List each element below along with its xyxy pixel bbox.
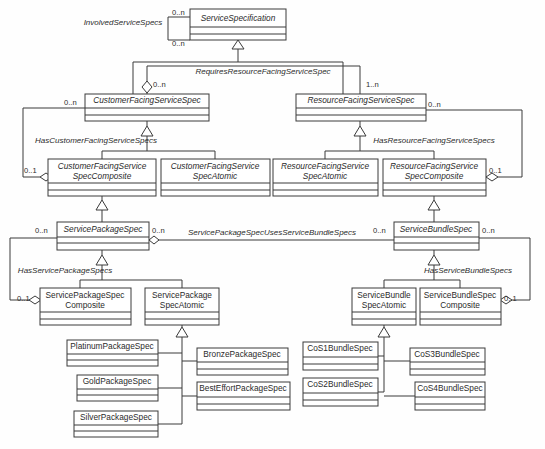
generalization-arrow-rfss-composite	[428, 200, 440, 210]
multiplicity-label-layer: 0..n 0..n 0..n 1..n 0..n 0..n 0..1 0..1 …	[17, 8, 517, 303]
class-resource-facing-service-spec-composite[interactable]: ResourceFacingService SpecComposite	[383, 159, 486, 196]
diagram-canvas: ServiceSpecification CustomerFacingServi…	[0, 0, 545, 449]
gen-sbs-split	[384, 280, 460, 288]
multiplicity-sbs-left: 0..n	[373, 226, 386, 235]
generalization-arrow-sbs	[428, 255, 440, 265]
class-customer-facing-service-spec[interactable]: CustomerFacingServiceSpec	[85, 94, 209, 121]
class-resource-facing-service-spec-atomic[interactable]: ResourceFacingService SpecAtomic	[273, 159, 378, 196]
generalization-arrow-cfss	[141, 126, 153, 136]
class-name-line1: CustomerFacingService	[58, 161, 147, 171]
multiplicity-sps-right: 0..n	[152, 226, 165, 235]
aggregation-diamond-requires	[142, 81, 152, 93]
class-resource-facing-service-spec[interactable]: ResourceFacingServiceSpec	[296, 94, 426, 121]
class-cos2-bundle-spec[interactable]: CoS2BundleSpec	[303, 378, 378, 406]
class-best-effort-package-spec[interactable]: BestEffortPackageSpec	[197, 382, 290, 410]
class-name-line2: SpecAtomic	[303, 171, 348, 181]
class-name-label: BestEffortPackageSpec	[199, 383, 286, 393]
class-name-line2: SpecAtomic	[362, 300, 406, 310]
class-customer-facing-service-spec-atomic[interactable]: CustomerFacingService SpecAtomic	[161, 159, 270, 196]
gen-rfss-split	[325, 151, 434, 159]
class-bronze-package-spec[interactable]: BronzePackageSpec	[197, 348, 288, 375]
class-service-bundle-spec[interactable]: ServiceBundleSpec	[394, 222, 479, 250]
multiplicity-cfss-composite-left: 0..1	[24, 166, 37, 175]
multiplicity-sbs-composite-right: 0..1	[504, 294, 517, 303]
multiplicity-rfss-composite-right: 0..1	[489, 166, 502, 175]
class-cos1-bundle-spec[interactable]: CoS1BundleSpec	[303, 342, 378, 370]
class-name-line2: Composite	[65, 300, 105, 310]
class-name-label: SilverPackageSpec	[80, 412, 152, 422]
assoc-label-has-customer-facing-service-specs: HasCustomerFacingServiceSpecs	[35, 136, 157, 145]
class-name-line1: ServiceBundleSpec	[424, 290, 496, 300]
multiplicity-requires-source: 0..n	[153, 80, 166, 89]
class-cos3-bundle-spec[interactable]: CoS3BundleSpec	[410, 348, 485, 375]
class-name-label: BronzePackageSpec	[203, 349, 281, 359]
gen-sps-split	[80, 280, 182, 288]
class-name-line2: SpecComposite	[73, 171, 132, 181]
class-name-label: CoS4BundleSpec	[417, 383, 483, 393]
multiplicity-sps-left: 0..n	[35, 226, 48, 235]
multiplicity-rfss-right: 0..n	[428, 100, 441, 109]
generalization-arrow-sps	[96, 255, 108, 265]
class-name-label: ResourceFacingServiceSpec	[308, 95, 416, 105]
class-platinum-package-spec[interactable]: PlatinumPackageSpec	[67, 340, 158, 366]
class-name-label: CustomerFacingServiceSpec	[93, 95, 201, 105]
class-name-line2: SpecComposite	[405, 171, 464, 181]
class-name-label: CoS3BundleSpec	[414, 349, 480, 359]
generalization-arrow-sbs-atomic	[378, 327, 390, 337]
generalization-arrow-rfss	[354, 126, 366, 136]
class-service-bundle-spec-atomic[interactable]: ServiceBundle SpecAtomic	[352, 288, 416, 325]
class-name-label: ServiceBundleSpec	[400, 224, 473, 234]
multiplicity-involved-bottom: 0..n	[172, 39, 185, 48]
class-name-line1: ResourceFacingService	[281, 161, 369, 171]
multiplicity-requires-target: 1..n	[366, 80, 379, 89]
class-cos4-bundle-spec[interactable]: CoS4BundleSpec	[415, 382, 485, 410]
class-name-line2: Composite	[440, 300, 480, 310]
multiplicity-sbs-right: 0..n	[482, 226, 495, 235]
assoc-label-has-resource-facing-service-specs: HasResourceFacingServiceSpecs	[373, 136, 494, 145]
class-name-line1: ResourceFacingService	[390, 161, 478, 171]
generalization-arrow-sps-atomic	[176, 327, 188, 337]
assoc-label-has-service-bundle-specs: HasServiceBundleSpecs	[424, 266, 512, 275]
uml-class-diagram: ServiceSpecification CustomerFacingServi…	[0, 0, 545, 449]
assoc-label-requires-resource-facing-service-spec: RequiresResourceFacingServiceSpec	[195, 67, 330, 76]
class-name-label: CoS1BundleSpec	[307, 343, 373, 353]
class-gold-package-spec[interactable]: GoldPackageSpec	[77, 375, 158, 401]
class-name-line1: ServicePackage	[152, 290, 212, 300]
class-service-bundle-spec-composite[interactable]: ServiceBundleSpec Composite	[420, 288, 501, 325]
generalization-arrow-servicespec	[232, 40, 244, 49]
class-name-label: ServiceSpecification	[201, 13, 276, 23]
class-name-line1: ServicePackageSpec	[46, 290, 125, 300]
assoc-label-has-service-package-specs: HasServicePackageSpecs	[18, 266, 112, 275]
assoc-involved-service-specs-line	[168, 17, 190, 40]
class-name-label: PlatinumPackageSpec	[70, 341, 153, 351]
class-customer-facing-service-spec-composite[interactable]: CustomerFacingService SpecComposite	[48, 159, 156, 196]
generalization-arrow-cfss-composite	[96, 200, 108, 210]
class-name-line2: SpecAtomic	[160, 300, 204, 310]
class-service-package-spec-atomic[interactable]: ServicePackage SpecAtomic	[145, 288, 219, 325]
class-silver-package-spec[interactable]: SilverPackageSpec	[74, 411, 158, 437]
multiplicity-cfss-left: 0..n	[64, 98, 77, 107]
gen-cfss-split	[102, 151, 215, 159]
class-name-label: GoldPackageSpec	[83, 376, 152, 386]
assoc-label-involved-service-specs: InvolvedServiceSpecs	[84, 18, 163, 27]
multiplicity-sps-composite-left: 0..1	[17, 294, 30, 303]
class-name-line1: ServiceBundle	[357, 290, 411, 300]
class-service-package-spec[interactable]: ServicePackageSpec	[57, 222, 149, 250]
assoc-label-service-package-spec-uses-service-bundle-specs: ServicePackageSpecUsesServiceBundleSpecs	[188, 228, 356, 237]
class-name-label: CoS2BundleSpec	[307, 379, 373, 389]
aggregation-diamond-sps-uses	[149, 236, 159, 244]
class-name-line1: CustomerFacingService	[171, 161, 260, 171]
class-service-package-spec-composite[interactable]: ServicePackageSpec Composite	[40, 288, 131, 325]
multiplicity-involved-top: 0..n	[172, 8, 185, 17]
class-name-label: ServicePackageSpec	[64, 224, 144, 234]
aggregation-diamond-has-sps	[29, 296, 41, 304]
class-name-line2: SpecAtomic	[193, 171, 238, 181]
class-service-specification[interactable]: ServiceSpecification	[190, 9, 286, 40]
